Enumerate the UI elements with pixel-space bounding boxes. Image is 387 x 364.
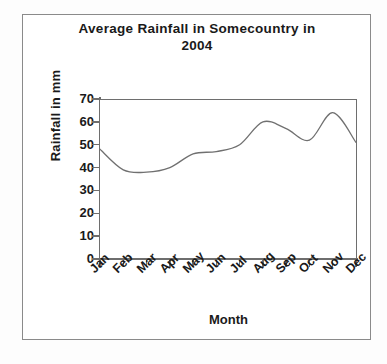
chart-title-line-2: 2004 (181, 38, 212, 53)
x-axis-tick-labels: JanFebMarAprMayJunJulAugSepOctNovDec (99, 266, 358, 310)
y-axis-tick-label: 60 (64, 114, 94, 129)
y-axis-tick-label: 20 (64, 205, 94, 220)
y-axis-title: Rainfall in mm (48, 43, 63, 189)
y-axis-tick-label: 70 (64, 91, 94, 106)
y-axis-tick-label: 30 (64, 182, 94, 197)
chart-title: Average Rainfall in Somecountry in 2004 (32, 20, 362, 54)
y-axis-tick-label: 50 (64, 137, 94, 152)
y-axis-tick-label: 10 (64, 228, 94, 243)
plot-area (99, 99, 357, 259)
chart-page: Average Rainfall in Somecountry in 2004 … (0, 0, 387, 364)
rainfall-line-series (99, 99, 357, 259)
y-axis-tick-labels: 010203040506070 (62, 99, 94, 259)
y-axis-tick-label: 40 (64, 160, 94, 175)
x-axis-title: Month (99, 312, 358, 327)
chart-title-line-1: Average Rainfall in Somecountry in (78, 21, 315, 36)
